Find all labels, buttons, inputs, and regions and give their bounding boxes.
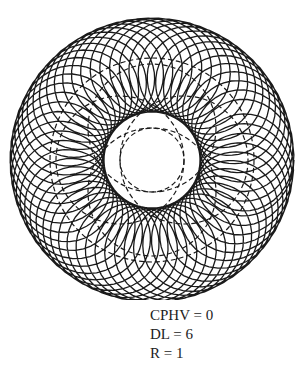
dl-label: DL = 6 <box>150 325 213 344</box>
rosette-curve <box>10 18 294 300</box>
dashed-circle <box>120 128 184 192</box>
r-label: R = 1 <box>150 344 213 363</box>
parameter-labels: CPHV = 0 DL = 6 R = 1 <box>150 306 213 363</box>
rosette-plot <box>0 0 304 300</box>
cphv-label: CPHV = 0 <box>150 306 213 325</box>
